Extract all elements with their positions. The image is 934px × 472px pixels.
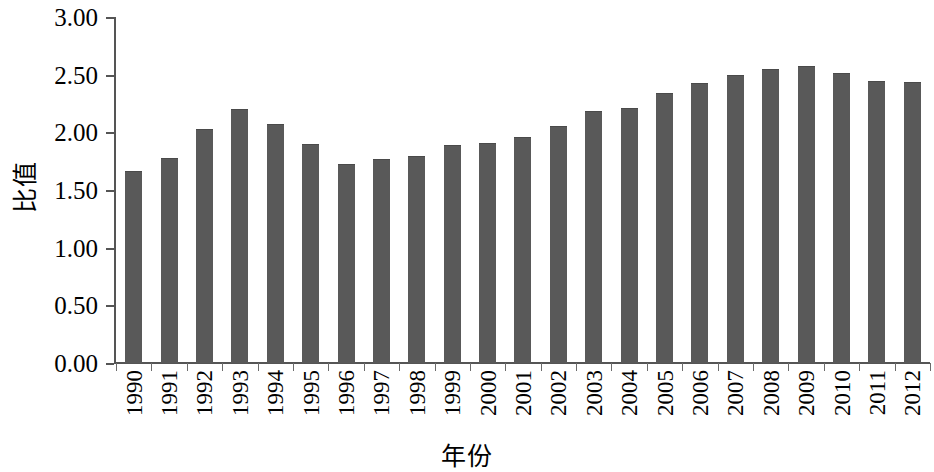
x-label-slot: 2004	[611, 366, 646, 442]
bar-slot	[541, 17, 576, 363]
x-label-slot: 2003	[576, 366, 611, 442]
y-axis-tick-mark	[106, 305, 114, 307]
bar[interactable]	[727, 75, 744, 363]
x-axis-tick-label: 1994	[264, 370, 287, 416]
x-axis-tick-label: 1996	[335, 370, 358, 416]
bar-slot	[258, 17, 293, 363]
bar-slot	[788, 17, 823, 363]
x-label-slot: 2009	[788, 366, 823, 442]
bar-slot	[116, 17, 151, 363]
x-label-slot: 1991	[151, 366, 186, 442]
bar[interactable]	[798, 66, 815, 363]
bar-slot	[151, 17, 186, 363]
bar-slot	[859, 17, 894, 363]
bar[interactable]	[302, 144, 319, 363]
x-axis-tick-label: 1993	[228, 370, 251, 416]
x-axis-tick-label: 1998	[405, 370, 428, 416]
x-axis-tick-label: 2010	[830, 370, 853, 416]
y-axis-tick-label: 3.00	[54, 5, 98, 30]
y-axis-tick-mark	[106, 248, 114, 250]
bar[interactable]	[373, 159, 390, 363]
x-label-slot: 2012	[895, 366, 930, 442]
bar[interactable]	[762, 69, 779, 363]
x-axis-tick-label: 2004	[618, 370, 641, 416]
x-label-slot: 2006	[682, 366, 717, 442]
y-axis-tick-mark	[106, 75, 114, 77]
bar-slot	[753, 17, 788, 363]
x-axis-title: 年份	[0, 444, 934, 469]
x-label-slot: 2002	[541, 366, 576, 442]
bar[interactable]	[267, 124, 284, 363]
bar-slot	[647, 17, 682, 363]
y-axis-title-label: 比值	[13, 160, 38, 212]
x-label-slot: 2001	[505, 366, 540, 442]
x-axis-tick-label: 2005	[653, 370, 676, 416]
bar[interactable]	[585, 111, 602, 363]
bar[interactable]	[196, 129, 213, 363]
bar[interactable]	[691, 83, 708, 363]
bar[interactable]	[161, 158, 178, 363]
x-label-slot: 1995	[293, 366, 328, 442]
bar[interactable]	[444, 145, 461, 363]
x-axis-tick-label: 2002	[547, 370, 570, 416]
y-axis-tick-label: 1.50	[54, 178, 98, 203]
bar-slot	[187, 17, 222, 363]
bar-slot	[222, 17, 257, 363]
bar-slot	[470, 17, 505, 363]
bar[interactable]	[479, 143, 496, 363]
bar-slot	[435, 17, 470, 363]
x-label-slot: 2010	[824, 366, 859, 442]
y-axis-tick-label: 1.00	[54, 235, 98, 260]
y-axis-tick-mark	[106, 17, 114, 19]
bar-slot	[718, 17, 753, 363]
bar[interactable]	[338, 164, 355, 363]
x-label-slot: 1998	[399, 366, 434, 442]
x-axis-tick-label: 2011	[865, 370, 888, 415]
bar[interactable]	[514, 137, 531, 363]
x-axis-tick-label: 1992	[193, 370, 216, 416]
x-axis-tick-labels: 1990199119921993199419951996199719981999…	[116, 366, 930, 442]
bar-slot	[824, 17, 859, 363]
bar[interactable]	[621, 108, 638, 363]
y-axis-tick-label: 2.50	[54, 62, 98, 87]
x-axis-tick-label: 2007	[724, 370, 747, 416]
bar-slot	[682, 17, 717, 363]
y-axis-tick-mark	[106, 190, 114, 192]
x-label-slot: 2008	[753, 366, 788, 442]
x-axis-tick-label: 2008	[759, 370, 782, 416]
y-axis-tick-labels: 3.002.502.001.501.000.500.00	[36, 0, 106, 372]
bar[interactable]	[125, 171, 142, 363]
y-axis-tick-label: 0.00	[54, 351, 98, 376]
bar-slot	[576, 17, 611, 363]
bar[interactable]	[904, 82, 921, 363]
y-axis-tick-mark	[106, 363, 114, 365]
x-axis-tick-label: 2003	[582, 370, 605, 416]
bar[interactable]	[833, 73, 850, 363]
x-axis-tick-label: 1990	[122, 370, 145, 416]
bar[interactable]	[656, 93, 673, 363]
plot-area	[114, 17, 930, 363]
x-label-slot: 2000	[470, 366, 505, 442]
x-axis-tick-label: 1991	[158, 370, 181, 416]
bar-chart: 比值 3.002.502.001.501.000.500.00 19901991…	[0, 0, 934, 472]
x-label-slot: 2005	[647, 366, 682, 442]
x-label-slot: 1992	[187, 366, 222, 442]
x-label-slot: 2011	[859, 366, 894, 442]
y-axis-tick-label: 2.00	[54, 120, 98, 145]
bar[interactable]	[868, 81, 885, 363]
bar[interactable]	[550, 126, 567, 363]
bar-slot	[505, 17, 540, 363]
bar[interactable]	[231, 109, 248, 363]
x-axis-tick-label: 2001	[511, 370, 534, 416]
x-label-slot: 1996	[328, 366, 363, 442]
x-axis-tick-label: 2009	[795, 370, 818, 416]
x-axis-tick-label: 2006	[688, 370, 711, 416]
bar[interactable]	[408, 156, 425, 363]
y-axis-tick-label: 0.50	[54, 293, 98, 318]
bar-slot	[293, 17, 328, 363]
x-axis-tick-label: 1995	[299, 370, 322, 416]
y-axis-tick-mark	[106, 132, 114, 134]
x-axis-tick-label: 2000	[476, 370, 499, 416]
bar-slot	[611, 17, 646, 363]
x-label-slot: 1993	[222, 366, 257, 442]
